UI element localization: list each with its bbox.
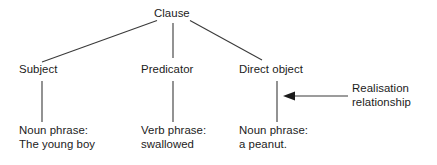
realisation-subject-line1: Noun phrase:: [19, 124, 88, 138]
annotation-realisation-line2: relationship: [352, 96, 411, 110]
realisation-direct-object-line1: Noun phrase:: [239, 124, 308, 138]
node-direct-object: Direct object: [239, 63, 303, 77]
realisation-arrow-head: [283, 92, 295, 101]
annotation-realisation-line1: Realisation: [352, 82, 409, 96]
branch-clause-to-direct-object: [190, 21, 262, 61]
tree-diagram: Clause Subject Predicator Direct object …: [0, 0, 437, 165]
branch-clause-to-subject: [42, 21, 157, 63]
node-predicator: Predicator: [141, 63, 193, 77]
node-clause: Clause: [154, 7, 190, 21]
realisation-predicator-line1: Verb phrase:: [141, 124, 206, 138]
realisation-direct-object-line2: a peanut.: [239, 138, 287, 152]
realisation-predicator-line2: swallowed: [141, 138, 194, 152]
realisation-subject-line2: The young boy: [19, 138, 95, 152]
node-subject: Subject: [19, 63, 57, 77]
